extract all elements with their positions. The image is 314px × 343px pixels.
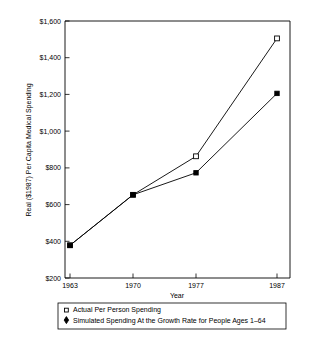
y-tick-5: $600 [45,201,69,208]
data-point-marker [194,154,199,159]
series-simulated-line [70,93,277,245]
y-axis-title: Real ($1987) Per Capita Medical Spending [25,83,33,216]
data-point-marker [131,193,135,197]
y-tick-6: $400 [45,238,69,245]
y-tick-label: $1,000 [40,128,62,135]
y-tick-label: $400 [45,238,61,245]
chart-figure: $1,600 $1,400 $1,200 $1,000 $800 $600 [0,0,314,343]
y-tick-label: $800 [45,164,61,171]
line-chart: $1,600 $1,400 $1,200 $1,000 $800 $600 [0,0,314,343]
y-tick-label: $600 [45,201,61,208]
data-point-marker [68,243,72,247]
legend-item-actual: Actual Per Person Spending [65,306,162,314]
legend-item-simulated: Simulated Spending At the Growth Rate fo… [64,317,266,325]
legend-item-label: Simulated Spending At the Growth Rate fo… [73,317,266,325]
y-tick-label: $1,600 [40,18,62,25]
x-tick-label: 1977 [188,282,204,289]
legend: Actual Per Person Spending Simulated Spe… [58,303,286,329]
plot-frame [65,21,290,278]
open-square-icon [65,308,69,312]
y-tick-7: $200 [45,275,69,282]
data-point-marker [275,91,279,95]
x-axis: 1963 1970 1977 1987 [62,274,285,290]
x-tick-label: 1963 [62,282,78,289]
y-tick-label: $1,400 [40,54,62,61]
x-tick-2: 1977 [188,274,204,290]
x-tick-1: 1970 [125,274,141,290]
x-tick-label: 1987 [269,282,285,289]
y-tick-4: $800 [45,164,69,171]
data-point-marker [194,171,198,175]
series-simulated-spending [68,91,279,247]
series-actual-per-person-spending [68,36,280,248]
series-actual-line [70,38,277,245]
x-axis-title: Year [170,292,185,299]
y-tick-label: $1,200 [40,91,62,98]
legend-item-label: Actual Per Person Spending [73,306,161,314]
filled-diamond-icon [64,317,68,324]
x-tick-label: 1970 [125,282,141,289]
x-tick-3: 1987 [269,274,285,290]
y-tick-label: $200 [45,275,61,282]
data-point-marker [275,36,280,41]
